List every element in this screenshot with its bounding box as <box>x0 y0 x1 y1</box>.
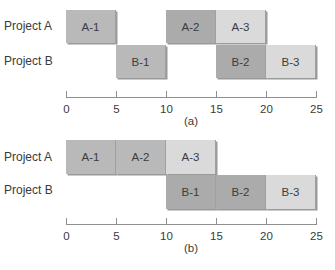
task-bar-a-3: A-3 <box>166 140 216 174</box>
x-axis-tick-label: 0 <box>63 230 69 242</box>
task-bar-a-3: A-3 <box>216 10 266 43</box>
chart-caption: (b) <box>184 242 198 254</box>
x-axis-tick-label: 5 <box>113 103 119 115</box>
task-bar-b-2: B-2 <box>216 175 266 209</box>
x-axis-tick <box>316 218 317 225</box>
x-axis-tick-label: 20 <box>260 230 273 242</box>
x-axis-tick-label: 15 <box>210 230 223 242</box>
row-label-project-b: Project B <box>4 54 53 68</box>
x-axis-tick-label: 15 <box>210 103 223 115</box>
task-bar-a-2: A-2 <box>166 10 216 43</box>
x-axis-tick <box>216 91 217 98</box>
row-label-project-a: Project A <box>4 19 52 33</box>
x-axis-tick <box>166 218 167 225</box>
x-axis-tick-label: 25 <box>310 103 323 115</box>
chart-caption: (a) <box>184 115 198 127</box>
gantt-chart-b: Project AProject BA-1A-2A-3B-1B-2B-30510… <box>0 135 335 270</box>
x-axis-tick-label: 10 <box>160 230 173 242</box>
task-bar-a-2: A-2 <box>116 140 166 174</box>
x-axis-tick-label: 10 <box>160 103 173 115</box>
task-bar-b-1: B-1 <box>116 45 166 78</box>
task-bar-a-1: A-1 <box>66 10 116 43</box>
x-axis-tick <box>66 91 67 98</box>
x-axis-tick <box>66 218 67 225</box>
x-axis-tick <box>266 218 267 225</box>
x-axis-tick-label: 20 <box>260 103 273 115</box>
task-bar-b-3: B-3 <box>266 45 316 78</box>
x-axis-tick <box>316 91 317 98</box>
task-bar-a-1: A-1 <box>66 140 116 174</box>
x-axis-line <box>66 97 316 98</box>
x-axis-tick-label: 0 <box>63 103 69 115</box>
task-bar-b-2: B-2 <box>216 45 266 78</box>
x-axis-tick <box>116 91 117 98</box>
gantt-chart-a: Project AProject BA-1A-2A-3B-1B-2B-30510… <box>0 0 335 135</box>
task-bar-b-3: B-3 <box>266 175 316 209</box>
task-bar-b-1: B-1 <box>166 175 216 209</box>
row-label-project-b: Project B <box>4 183 53 197</box>
x-axis-tick <box>116 218 117 225</box>
x-axis-tick <box>166 91 167 98</box>
x-axis-tick <box>266 91 267 98</box>
x-axis-tick-label: 25 <box>310 230 323 242</box>
row-label-project-a: Project A <box>4 150 52 164</box>
x-axis-tick-label: 5 <box>113 230 119 242</box>
x-axis-tick <box>216 218 217 225</box>
x-axis-line <box>66 224 316 225</box>
